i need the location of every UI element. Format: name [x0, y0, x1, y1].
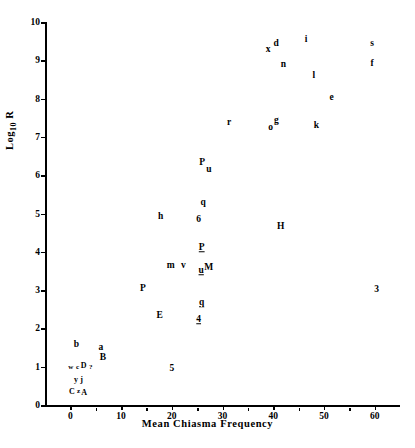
x-tick-label: 20: [167, 411, 177, 421]
data-point-label: l: [312, 71, 315, 81]
y-tick-mark: [41, 60, 46, 62]
data-point-label: 5: [169, 364, 174, 374]
data-point-label: B: [100, 354, 106, 364]
data-point-label: q: [201, 198, 206, 208]
data-point-label: i: [305, 35, 308, 45]
x-minor-tick-mark: [96, 408, 98, 411]
data-point-label: x: [266, 45, 271, 55]
data-point-label: 3: [374, 285, 379, 295]
y-axis-title-tail: R: [4, 111, 15, 119]
data-point-label: s: [370, 39, 374, 49]
x-tick-label: 60: [370, 411, 380, 421]
data-point-label: e: [329, 93, 333, 103]
data-point-label: b: [74, 340, 79, 350]
y-tick-mark: [41, 175, 46, 177]
y-axis-title: Log10 R: [4, 130, 18, 150]
y-tick-label: 10: [31, 17, 41, 27]
y-tick-mark: [41, 99, 46, 101]
data-point-label: c: [76, 363, 79, 370]
data-point-label: j: [80, 376, 83, 384]
y-tick-mark: [41, 367, 46, 369]
y-axis-title-base: Log: [4, 131, 15, 150]
x-tick-label: 50: [319, 411, 329, 421]
data-point-label: f: [371, 59, 374, 69]
data-point-label: d: [274, 39, 279, 49]
data-point-label: o: [268, 124, 273, 134]
plot-area: 012345678910 0102030405060 xdisnflerogkP…: [45, 22, 400, 407]
x-minor-tick-mark: [146, 408, 148, 411]
y-tick-label: 9: [35, 55, 40, 65]
y-tick-label: 0: [35, 400, 40, 410]
x-tick-mark: [375, 405, 377, 410]
data-point-label: m: [167, 262, 175, 272]
x-tick-label: 30: [218, 411, 228, 421]
data-point-label: h: [158, 213, 163, 223]
y-tick-mark: [41, 22, 46, 24]
data-point-label: z: [77, 387, 80, 394]
y-tick-label: 6: [35, 170, 40, 180]
x-minor-tick-mark: [248, 408, 250, 411]
x-tick-label: 0: [68, 411, 73, 421]
y-tick-label: 3: [35, 285, 40, 295]
x-tick-mark: [172, 405, 174, 410]
y-tick-mark: [41, 290, 46, 292]
data-point-label: 4: [196, 315, 201, 325]
y-tick-mark: [41, 405, 46, 407]
x-minor-tick-mark: [197, 408, 199, 411]
data-point-label: n: [281, 61, 286, 71]
y-tick-label: 1: [35, 362, 40, 372]
data-point-label: D: [81, 362, 87, 370]
y-tick-label: 4: [35, 247, 40, 257]
data-point-label: k: [314, 121, 319, 131]
x-axis-title: Mean Chiasma Frequency: [0, 418, 415, 429]
y-tick-mark: [41, 252, 46, 254]
y-tick-mark: [41, 137, 46, 139]
data-point-label: w: [68, 363, 73, 370]
data-point-label: P: [199, 158, 205, 168]
data-point-label: E: [156, 311, 162, 321]
data-point-label: P: [199, 243, 205, 253]
y-tick-mark: [41, 328, 46, 330]
y-tick-label: 2: [35, 323, 40, 333]
x-tick-mark: [121, 405, 123, 410]
data-point-label: q: [199, 298, 204, 308]
scatter-plot-figure: Log10 R Mean Chiasma Frequency 012345678…: [0, 0, 415, 448]
y-tick-mark: [41, 214, 46, 216]
data-point-label: A: [81, 389, 87, 397]
y-tick-label: 7: [35, 132, 40, 142]
data-point-label: u: [199, 266, 204, 276]
data-point-label: H: [277, 222, 284, 232]
y-axis-title-subscript: 10: [9, 122, 18, 131]
x-tick-mark: [70, 405, 72, 410]
data-point-label: C: [69, 388, 75, 396]
data-point-label: 6: [196, 216, 201, 226]
data-point-label: u: [206, 165, 211, 175]
data-point-label: M: [204, 264, 213, 274]
x-tick-mark: [223, 405, 225, 410]
data-point-label: P: [140, 285, 146, 295]
data-point-label: v: [181, 261, 186, 271]
x-tick-label: 10: [116, 411, 126, 421]
x-tick-label: 40: [268, 411, 278, 421]
y-tick-label: 8: [35, 94, 40, 104]
data-point-label: r: [227, 119, 231, 129]
x-minor-tick-mark: [349, 408, 351, 411]
data-point-label: ?: [89, 363, 93, 370]
x-tick-mark: [273, 405, 275, 410]
data-point-label: g: [274, 116, 279, 126]
x-minor-tick-mark: [299, 408, 301, 411]
y-tick-label: 5: [35, 209, 40, 219]
x-tick-mark: [324, 405, 326, 410]
data-point-label: y: [74, 376, 78, 384]
